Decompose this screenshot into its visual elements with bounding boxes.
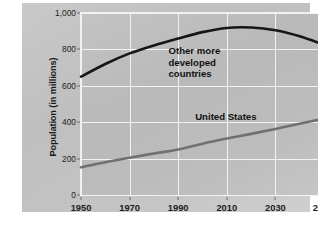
y-tick-mark-600 [77, 85, 80, 86]
chart-panel: Population (in millions) 1,000 800 600 [22, 3, 310, 212]
annotation-other-more-developed-countries: Other more developed countries [169, 45, 221, 79]
x-tick-mark-1990 [178, 197, 179, 200]
y-tick-mark-800 [77, 49, 80, 50]
y-tick-mark-200 [77, 158, 80, 159]
x-tick-mark-2010 [226, 197, 227, 200]
series-layer [81, 13, 318, 195]
y-tick-label-0: 0 [71, 190, 76, 200]
x-tick-mark-1970 [129, 197, 130, 200]
line-united-states [81, 119, 318, 168]
gridline-horizontal-0 [81, 195, 318, 196]
y-tick-mark-400 [77, 122, 80, 123]
x-tick-label-1990: 1990 [168, 203, 189, 213]
x-tick-label-2030: 2030 [265, 203, 286, 213]
y-axis-title: Population (in millions) [48, 27, 58, 187]
x-tick-mark-2030 [275, 197, 276, 200]
y-tick-label-1000: 1,000 [55, 8, 76, 18]
x-tick-mark-1950 [81, 197, 82, 200]
x-tick-label-1950: 1950 [71, 203, 92, 213]
x-tick-label-2010: 2010 [216, 203, 237, 213]
x-tick-label-2050: 2050 [313, 203, 318, 213]
y-tick-label-200: 200 [62, 154, 76, 164]
x-tick-label-1970: 1970 [119, 203, 140, 213]
y-tick-label-600: 600 [62, 81, 76, 91]
y-tick-mark-0 [77, 195, 80, 196]
plot-area: 1,000 800 600 400 200 0 1950 1970 1990 2… [81, 13, 318, 195]
chart-figure: Population (in millions) 1,000 800 600 [0, 0, 318, 225]
y-tick-mark-1000 [77, 13, 80, 14]
annotation-united-states: United States [195, 111, 256, 122]
y-tick-label-800: 800 [62, 44, 76, 54]
y-tick-label-400: 400 [62, 117, 76, 127]
